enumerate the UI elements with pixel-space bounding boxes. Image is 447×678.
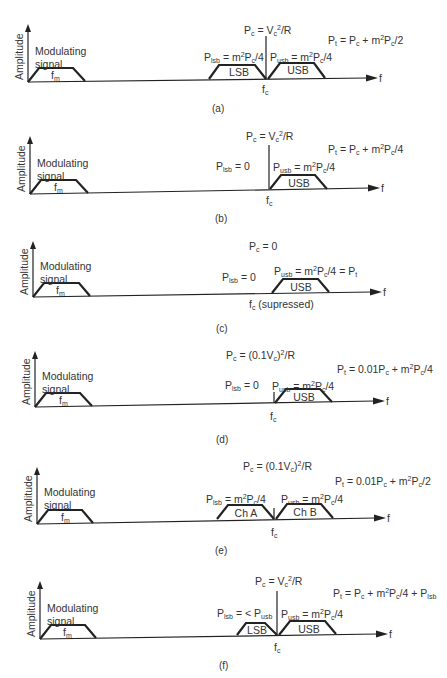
pc-label: Pc = Vc2/R: [246, 130, 293, 143]
panel-caption: (a): [212, 103, 224, 114]
modulating-signal-label: Modulatingsignal: [37, 157, 88, 183]
y-axis-label: Amplitude: [25, 590, 37, 637]
plsb-label: Plsb = 0: [216, 161, 250, 173]
fc-label: fc: [266, 195, 272, 207]
pc-label: Pc = (0.1Vc)2/R: [243, 460, 312, 473]
ch-b-box-label: Ch B: [288, 506, 322, 518]
f-axis-label: f: [379, 73, 382, 84]
plsb-label: Plsb = m2Pc/4: [204, 51, 264, 64]
f-axis-label: f: [386, 396, 389, 407]
fc-label: fc: [262, 84, 268, 96]
pusb-label: Pusb = m2Pc/4: [273, 161, 335, 174]
f-axis-label: f: [387, 513, 390, 524]
usb-box-label: USB: [287, 391, 321, 403]
plsb-label: Plsb = 0: [222, 272, 256, 284]
f-axis-label: f: [381, 183, 384, 194]
panel-e: Amplitude Modulatingsignal fm Pc = (0.1V…: [0, 445, 447, 555]
pt-label: Pt = Pc + m2Pc/4: [328, 143, 403, 156]
pc-label: Pc = 0: [249, 241, 277, 253]
fm-label: fm: [56, 285, 65, 297]
panel-caption: (f): [219, 660, 228, 671]
modulating-signal-label: Modulatingsignal: [42, 370, 93, 396]
modulating-signal-label: Modulatingsignal: [44, 486, 95, 512]
plsb-label: Plsb = < Pusb: [217, 608, 272, 620]
fm-label: fm: [54, 182, 63, 194]
usb-box-label: USB: [292, 623, 326, 635]
fm-label: fm: [61, 512, 70, 524]
pc-label: Pc = Vc2/R: [244, 24, 291, 37]
y-axis-label: Amplitude: [15, 145, 27, 192]
y-axis-label: Amplitude: [22, 475, 34, 522]
y-axis-label: Amplitude: [18, 248, 30, 295]
fm-label: fm: [51, 70, 60, 82]
pc-label: Pc = (0.1Vc)2/R: [226, 349, 295, 362]
ch-a-box-label: Ch A: [229, 507, 263, 519]
pusb-label: Pusb = m2Pc/4: [270, 51, 332, 64]
pt-label: Pt = Pc + m2Pc/4 + Plsb: [333, 587, 436, 600]
pt-label: Pt = Pc + m2Pc/2: [328, 34, 403, 47]
fm-label: fm: [63, 627, 72, 639]
lsb-box-label: LSB: [222, 66, 256, 78]
panel-d: Amplitude Modulatingsignal fm Pc = (0.1V…: [0, 335, 447, 445]
pc-label: Pc = Vc2/R: [255, 575, 302, 588]
fm-label: fm: [59, 395, 68, 407]
fc-label: fc: [270, 411, 276, 423]
y-axis-label: Amplitude: [13, 33, 25, 80]
pusb-label: Pusb = m2Pc/4: [281, 608, 343, 621]
pusb-label: Pusb = m2Pc/4: [281, 493, 343, 506]
fc-label: fc: [274, 642, 280, 654]
panel-a: Amplitude Modulatingsignal fm Pc = Vc2/R…: [0, 0, 447, 115]
y-axis-label: Amplitude: [20, 358, 32, 405]
pt-label: Pt = 0.01Pc + m2Pc/4: [337, 363, 433, 376]
modulating-signal-label: Modulatingsignal: [47, 602, 98, 628]
modulating-signal-label: Modulatingsignal: [35, 45, 86, 71]
fc-label: fc: [271, 527, 277, 539]
f-axis-label: f: [383, 287, 386, 298]
modulating-signal-label: Modulatingsignal: [40, 260, 91, 286]
usb-box-label: USB: [284, 281, 318, 293]
plsb-label: Plsb = m2Pc/4: [206, 493, 266, 506]
usb-box-label: USB: [282, 177, 316, 189]
lsb-box-label: LSB: [244, 624, 270, 636]
usb-box-label: USB: [281, 64, 315, 76]
panel-caption: (c): [216, 323, 228, 334]
plsb-label: Plsb = 0: [225, 380, 259, 392]
panel-b: Amplitude Modulatingsignal fm Pc = Vc2/R…: [0, 115, 447, 225]
fc-label: fc (supressed): [249, 299, 314, 311]
pt-label: Pt = 0.01Pc + m2Pc/2: [335, 475, 431, 488]
panel-f: Amplitude Modulatingsignal fm Pc = Vc2/R…: [0, 555, 447, 678]
f-axis-label: f: [389, 629, 392, 640]
panel-caption: (b): [215, 213, 227, 224]
panel-caption: (d): [216, 434, 228, 445]
panel-c: Amplitude Modulatingsignal fm Pc = 0 Pls…: [0, 225, 447, 335]
pusb-label: Pusb = m2Pc/4 = Pt: [274, 265, 357, 278]
